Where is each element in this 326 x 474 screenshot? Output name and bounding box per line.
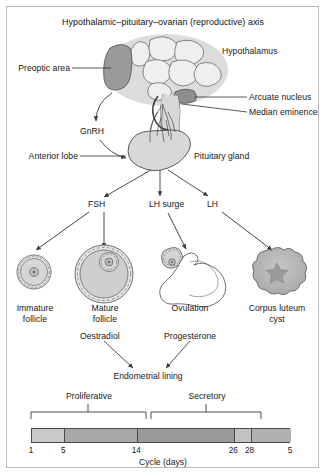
cycle-tick-label: 1 xyxy=(19,446,43,455)
cycle-caption: Cycle (days) xyxy=(0,457,326,467)
stage-line-2: cyst xyxy=(269,314,284,324)
stage-line-1: Corpus luteum xyxy=(249,303,306,313)
cycle-bar-segment xyxy=(234,429,250,442)
stage-line-2: follicle xyxy=(93,314,117,324)
figure-root: Hypothalamic–pituitary–ovarian (reproduc… xyxy=(0,0,326,474)
label-lh: LH xyxy=(207,199,218,209)
stage-line-1: Immature xyxy=(17,303,54,313)
label-fsh: FSH xyxy=(88,199,105,209)
cycle-bar-segment xyxy=(64,429,137,442)
label-phase-proliferative: Proliferative xyxy=(53,391,125,401)
cycle-tick-label: 5 xyxy=(51,446,75,455)
stage-label-ovulation: Ovulation xyxy=(155,303,225,314)
label-preoptic-area: Preoptic area xyxy=(0,63,70,73)
steroid-arrows xyxy=(104,341,190,368)
stage-label-immature-follicle: Immature follicle xyxy=(4,303,66,324)
cycle-bar xyxy=(31,428,290,443)
hormone-output-arrows xyxy=(104,170,208,197)
ovary-target-arrows xyxy=(36,212,272,250)
cycle-bar-segment xyxy=(251,429,291,442)
stage-label-mature-follicle: Mature follicle xyxy=(74,303,136,324)
stage-label-corpus-luteum: Corpus luteum cyst xyxy=(238,303,316,324)
cycle-tick-label: 14 xyxy=(124,446,148,455)
preoptic-area-shape xyxy=(104,45,132,91)
stage-line-1: Mature xyxy=(91,303,118,313)
label-gnrh: GnRH xyxy=(80,126,104,136)
cycle-tick-label: 5 xyxy=(278,446,302,455)
label-endometrial-lining: Endometrial lining xyxy=(83,371,213,381)
label-oestradiol: Oestradiol xyxy=(80,331,120,341)
label-anterior-lobe: Anterior lobe xyxy=(0,151,78,161)
label-arcuate-nucleus: Arcuate nucleus xyxy=(249,92,311,102)
cycle-tick-label: 28 xyxy=(238,446,262,455)
label-hypothalamus: Hypothalamus xyxy=(222,46,278,56)
immature-follicle-graphic xyxy=(17,255,51,289)
phase-brackets xyxy=(31,404,261,419)
label-lh-surge: LH surge xyxy=(149,199,184,209)
label-pituitary-gland: Pituitary gland xyxy=(194,151,249,161)
label-progesterone: Progesterone xyxy=(164,331,216,341)
label-phase-secretory: Secretory xyxy=(175,391,239,401)
cycle-bar-segment xyxy=(32,429,64,442)
pituitary-gland-shape xyxy=(128,130,190,171)
ovulation-graphic xyxy=(160,248,226,307)
label-median-eminence: Median eminence xyxy=(249,107,318,117)
cycle-bar-segment xyxy=(137,429,234,442)
stage-line-1: Ovulation xyxy=(172,303,209,313)
corpus-luteum-graphic xyxy=(253,248,307,295)
stage-line-2: follicle xyxy=(23,314,47,324)
mature-follicle-graphic xyxy=(75,245,133,303)
